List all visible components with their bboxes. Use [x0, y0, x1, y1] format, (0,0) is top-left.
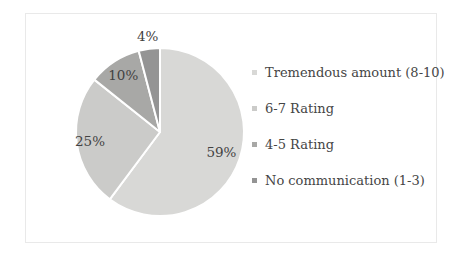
- legend-label: 4-5 Rating: [265, 137, 334, 152]
- chart-area: 59%25%10%4% Tremendous amount (8-10) 6-7…: [25, 13, 437, 243]
- legend-marker-square-icon: [252, 106, 257, 111]
- legend-marker-square-icon: [252, 178, 257, 183]
- legend-item: Tremendous amount (8-10): [252, 65, 445, 80]
- legend-marker-square-icon: [252, 142, 257, 147]
- legend-item: 4-5 Rating: [252, 137, 445, 152]
- legend-item: 6-7 Rating: [252, 101, 445, 116]
- legend-label: Tremendous amount (8-10): [265, 65, 445, 80]
- pie-slice-label: 25%: [75, 133, 105, 149]
- legend-label: 6-7 Rating: [265, 101, 334, 116]
- pie-slice-label: 10%: [108, 67, 138, 83]
- legend-marker-square-icon: [252, 70, 257, 75]
- legend-label: No communication (1-3): [265, 173, 425, 188]
- legend-item: No communication (1-3): [252, 173, 445, 188]
- chart-legend: Tremendous amount (8-10) 6-7 Rating 4-5 …: [252, 65, 445, 188]
- pie-slice-label: 59%: [206, 144, 236, 160]
- pie-slice-label: 4%: [137, 28, 159, 44]
- page: 59%25%10%4% Tremendous amount (8-10) 6-7…: [0, 0, 461, 260]
